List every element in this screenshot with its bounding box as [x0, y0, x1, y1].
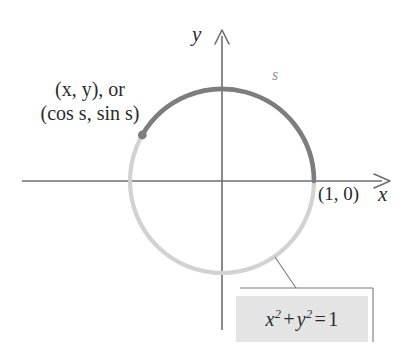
terminal-point-label-line1: (x, y), or — [24, 78, 156, 102]
arc-s-highlight — [142, 89, 314, 181]
equation-text: x2+y2=1 — [266, 308, 339, 331]
equation-callout-box: x2+y2=1 — [236, 296, 368, 342]
terminal-point-label: (x, y), or (cos s, sin s) — [24, 78, 156, 125]
equation-var-y: y — [297, 308, 306, 330]
terminal-point-label-line2: (cos s, sin s) — [24, 102, 156, 126]
unit-circle-figure: (x, y), or (cos s, sin s) y x s (1, 0) x… — [0, 0, 408, 351]
terminal-point-dot — [138, 131, 147, 140]
x-intercept-label: (1, 0) — [318, 183, 359, 205]
arc-length-label: s — [272, 66, 278, 85]
equation-equals: = — [313, 308, 329, 330]
x-axis-label: x — [378, 182, 387, 207]
equation-var-x: x — [266, 308, 275, 330]
callout-leader-line — [275, 257, 296, 288]
equation-plus: + — [281, 308, 297, 330]
equation-rhs: 1 — [328, 308, 338, 330]
equation-exponent-y: 2 — [306, 307, 313, 321]
y-axis-label: y — [192, 22, 201, 47]
